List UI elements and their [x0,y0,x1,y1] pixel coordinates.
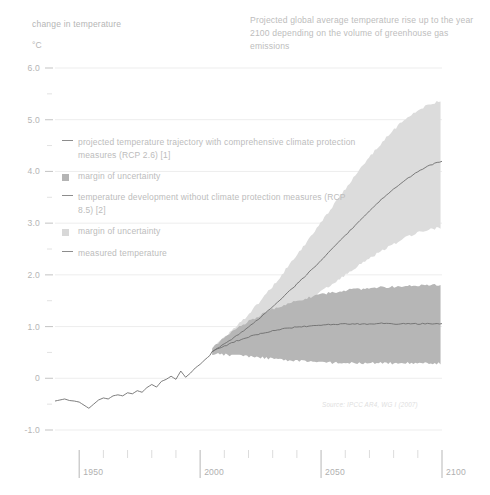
legend-swatch-marker-icon [62,170,78,181]
x-axis-major-ticks [79,450,442,478]
y-tick-label: 5.0 [27,115,40,125]
x-tick-label: 2050 [325,467,345,477]
x-tick-label: 2000 [204,467,224,477]
chart-title: Projected global average temperature ris… [250,14,482,53]
legend-label: margin of uncertainty [78,225,161,238]
climate-projection-chart: change in temperature °C Projected globa… [0,0,490,495]
source-note: Source: IPCC AR4, WG I (2007) [322,401,418,408]
legend-item: margin of uncertainty [62,225,362,238]
x-tick-label: 2100 [446,467,466,477]
x-axis-minor-ticks [103,450,417,458]
y-axis-unit: °C [32,40,42,50]
y-tick-label: 0 [35,373,40,383]
legend-item: projected temperature trajectory with co… [62,136,362,162]
band-swatch-icon [62,174,69,181]
legend-line-marker-icon [62,247,78,252]
x-tick-label: 1950 [83,467,103,477]
line-swatch-icon [62,140,73,141]
legend-item: margin of uncertainty [62,170,362,183]
y-tick-label: 4.0 [27,166,40,176]
legend-line-marker-icon [62,136,78,141]
x-axis-tick-labels: 1950200020502100 [83,467,466,477]
band-swatch-icon [62,229,69,236]
legend-item: measured temperature [62,247,362,260]
legend-label: projected temperature trajectory with co… [78,136,362,162]
legend-label: margin of uncertainty [78,170,161,183]
legend-line-marker-icon [62,191,78,196]
legend-item: temperature development without climate … [62,191,362,217]
y-tick-label: -1.0 [24,425,40,435]
chart-legend: projected temperature trajectory with co… [62,136,362,268]
line-swatch-icon [62,195,73,196]
y-tick-label: 2.0 [27,270,40,280]
y-axis-minor-ticks [47,94,52,404]
y-axis-tick-labels: -1.001.02.03.04.05.06.0 [24,63,40,435]
line-swatch-icon [62,251,73,252]
measured-temperature-line [55,351,212,408]
y-tick-label: 3.0 [27,218,40,228]
y-tick-label: 1.0 [27,322,40,332]
legend-label: temperature development without climate … [78,191,362,217]
y-tick-label: 6.0 [27,63,40,73]
footer-strip [0,487,490,495]
legend-label: measured temperature [78,247,167,260]
y-axis-caption: change in temperature [32,19,121,29]
data-line [55,351,212,408]
legend-swatch-marker-icon [62,225,78,236]
